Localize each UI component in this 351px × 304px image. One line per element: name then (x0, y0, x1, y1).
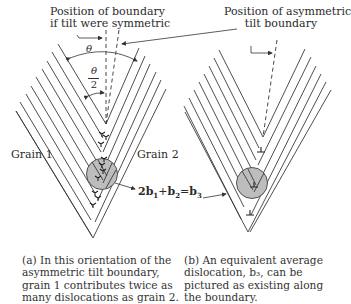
caption-line: (a) In this orientation of the (22, 254, 179, 266)
equals: = (180, 185, 189, 198)
label-line: tilt boundary (224, 18, 338, 30)
coef: 2 (138, 185, 146, 198)
burgers-vector-equation: 2b1+b2=b3 (138, 186, 202, 202)
label-line: if tilt were symmetric (50, 18, 160, 30)
burgers-circuit-circle-a (87, 159, 118, 190)
caption-line: (b) An equivalent average (184, 254, 323, 266)
caption-a: (a) In this orientation of the asymmetri… (22, 254, 179, 304)
caption-line: pictured as existing along (184, 279, 323, 291)
caption-line: dislocation, b₃, can be (184, 266, 323, 278)
sub: 3 (197, 191, 202, 200)
caption-line: many dislocations as grain 2. (22, 291, 179, 303)
burgers-circuit-circle-b (237, 168, 268, 199)
asymmetric-boundary-label: Position of asymmetric tilt boundary (224, 6, 338, 30)
caption-b: (b) An equivalent average dislocation, b… (184, 254, 323, 304)
theta-label: θ (86, 43, 92, 55)
grain-1-label: Grain 1 (11, 149, 53, 161)
symmetric-boundary-label: Position of boundary if tilt were symmet… (50, 6, 160, 30)
half-theta-denominator: 2 (89, 79, 99, 91)
panel-b-grain-lines (184, 49, 331, 232)
caption-line: the boundary. (184, 291, 323, 303)
b3: b (189, 185, 197, 198)
caption-line: asymmetric tilt boundary, (22, 266, 179, 278)
caption-line: grain 1 contributes twice as (22, 279, 179, 291)
half-theta-numerator: θ (89, 65, 99, 77)
grain-2-label: Grain 2 (137, 149, 179, 161)
b2: b (167, 185, 175, 198)
